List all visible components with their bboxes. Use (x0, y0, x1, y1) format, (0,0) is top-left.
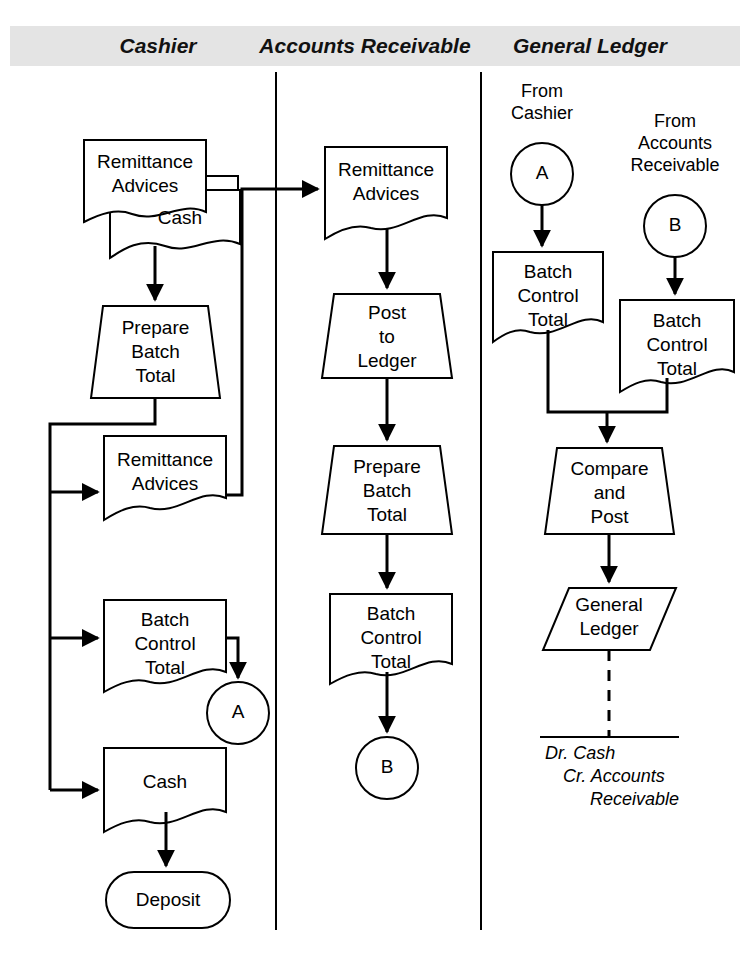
shape-terminator-deposit (106, 872, 230, 928)
shape-connector-b-ar (356, 737, 418, 799)
annotation-from-cashier: From Cashier (492, 80, 592, 124)
connector-remittance1-stub (206, 176, 238, 190)
shape-connector-a-gl (511, 143, 573, 205)
shape-doc-remittance-advices-ar (325, 147, 447, 239)
annotation-from-accounts-receivable: From Accounts Receivable (615, 110, 735, 176)
shape-doc-batch-control-total-ar (330, 594, 452, 684)
journal-entry-line-credit-cont: Receivable (590, 788, 679, 811)
column-header-accounts-receivable: Accounts Receivable (252, 31, 478, 61)
journal-entry-line-debit: Dr. Cash (545, 742, 615, 765)
shape-process-post-to-ledger (322, 294, 452, 378)
shape-doc-batch-control-total-gl-right (620, 300, 734, 392)
shape-connector-b-gl (644, 195, 706, 257)
flowchart-page: Cashier Accounts Receivable General Ledg… (0, 0, 750, 953)
shape-doc-batch-control-total-cashier (104, 600, 226, 692)
column-header-general-ledger: General Ledger (490, 31, 690, 61)
shape-doc-batch-control-total-gl-left (493, 252, 603, 342)
journal-entry-line-credit: Cr. Accounts (563, 765, 665, 788)
shape-process-prepare-batch-total-ar (322, 446, 452, 534)
shape-process-prepare-batch-total-1 (91, 306, 220, 398)
connector-batch-to-a (226, 638, 238, 678)
shape-data-general-ledger (543, 588, 676, 650)
shape-process-compare-and-post (545, 448, 674, 534)
shape-doc-remittance-advices-2 (104, 436, 226, 520)
shape-connector-a-cashier (207, 682, 269, 744)
column-header-cashier: Cashier (68, 31, 248, 61)
